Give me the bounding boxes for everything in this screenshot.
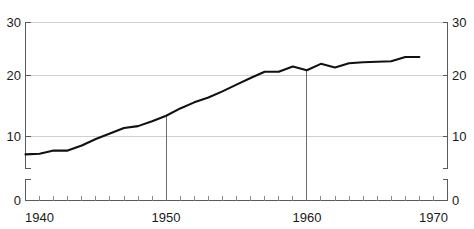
left-axis-tick-label-30: 30 xyxy=(7,15,21,30)
data-line-series-1 xyxy=(26,57,420,154)
right-axis-spine-group xyxy=(443,23,448,201)
x-minor-tick-group xyxy=(26,194,448,201)
right-axis-spine-upper xyxy=(443,23,448,169)
left-axis-spine-group xyxy=(26,23,31,201)
right-axis-tick-label-20: 20 xyxy=(452,68,466,83)
left-axis-spine-upper xyxy=(26,23,31,169)
right-axis-tick-label-0: 0 xyxy=(452,193,459,208)
right-axis-tick-label-10: 10 xyxy=(452,129,466,144)
chart-container: 30 20 10 0 30 20 10 0 1940 1950 1960 197… xyxy=(0,0,474,229)
right-axis-tick-label-30: 30 xyxy=(452,15,466,30)
right-axis-labels: 30 20 10 0 xyxy=(452,15,466,208)
right-axis-spine-lower xyxy=(443,180,448,201)
left-axis-tick-label-10: 10 xyxy=(7,129,21,144)
line-chart: 30 20 10 0 30 20 10 0 1940 1950 1960 197… xyxy=(0,0,474,229)
bottom-axis-group xyxy=(26,194,448,201)
x-axis-tick-label-1940: 1940 xyxy=(25,210,54,225)
left-axis-tick-label-0: 0 xyxy=(14,193,21,208)
x-axis-tick-label-1960: 1960 xyxy=(293,210,322,225)
left-axis-tick-label-20: 20 xyxy=(7,68,21,83)
left-axis-labels: 30 20 10 0 xyxy=(7,15,21,208)
x-axis-tick-label-1950: 1950 xyxy=(152,210,181,225)
x-axis-labels: 1940 1950 1960 1970 xyxy=(25,210,448,225)
gridline-group xyxy=(26,23,448,137)
x-axis-tick-label-1970: 1970 xyxy=(419,210,448,225)
annotation-group xyxy=(166,70,307,200)
left-axis-spine-lower xyxy=(26,180,31,201)
data-series-group xyxy=(26,57,420,154)
